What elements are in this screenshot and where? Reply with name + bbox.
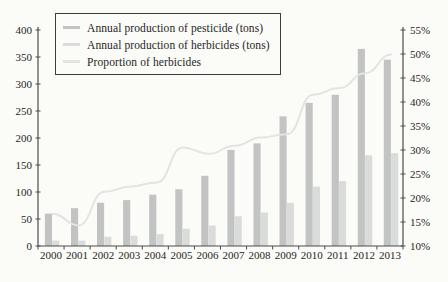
bar-herbicide-2005 — [183, 229, 190, 246]
bar-herbicide-2012 — [365, 155, 372, 246]
left-axis-tick-label: 50 — [21, 213, 33, 225]
bar-herbicide-2006 — [209, 226, 216, 247]
right-axis-tick-label: 15% — [410, 216, 430, 228]
right-axis-tick-label: 55% — [410, 24, 430, 36]
x-axis-year-label: 2008 — [249, 249, 272, 261]
left-axis-tick-label: 100 — [16, 186, 33, 198]
left-axis-tick-label: 250 — [16, 105, 33, 117]
legend-item-proportion: Proportion of herbicides — [63, 53, 270, 70]
bar-pesticide-2010 — [306, 103, 313, 246]
legend-item-herbicide: Annual production of herbicides (tons) — [63, 36, 270, 53]
right-axis-tick-label: 20% — [410, 192, 430, 204]
bar-pesticide-2013 — [384, 60, 391, 246]
x-axis-year-label: 2013 — [379, 249, 402, 261]
bar-pesticide-2011 — [332, 95, 339, 246]
bar-herbicide-2010 — [313, 187, 320, 246]
right-axis-tick-label: 25% — [410, 168, 430, 180]
bar-herbicide-2007 — [235, 216, 242, 246]
x-axis-year-label: 2007 — [223, 249, 246, 261]
bar-pesticide-2006 — [201, 176, 208, 246]
bar-pesticide-2005 — [175, 189, 182, 246]
left-axis-tick-label: 400 — [16, 24, 33, 36]
left-axis-tick-label: 200 — [16, 132, 33, 144]
legend-swatch-proportion — [63, 60, 80, 63]
bar-pesticide-2001 — [71, 208, 78, 246]
legend-swatch-herbicide — [63, 43, 80, 46]
bar-herbicide-2004 — [157, 234, 164, 246]
bar-herbicide-2011 — [339, 181, 346, 246]
x-axis-year-label: 2000 — [40, 249, 63, 261]
bar-pesticide-2007 — [227, 150, 234, 246]
bar-pesticide-2012 — [358, 49, 365, 246]
right-axis-tick-label: 40% — [410, 96, 430, 108]
legend-label-herbicide: Annual production of herbicides (tons) — [87, 39, 270, 51]
x-axis-year-label: 2011 — [327, 249, 349, 261]
bar-pesticide-2004 — [149, 195, 156, 246]
right-axis-tick-label: 10% — [410, 240, 430, 252]
x-axis-year-label: 2003 — [118, 249, 141, 261]
left-axis-tick-label: 0 — [27, 240, 33, 252]
chart-legend: Annual production of pesticide (tons) An… — [55, 13, 281, 75]
bar-herbicide-2003 — [130, 236, 137, 246]
right-axis-tick-label: 35% — [410, 120, 430, 132]
legend-item-pesticide: Annual production of pesticide (tons) — [63, 19, 270, 36]
x-axis-year-label: 2004 — [144, 249, 167, 261]
x-axis-year-label: 2009 — [275, 249, 298, 261]
right-axis-tick-label: 50% — [410, 48, 430, 60]
chart-figure: 05010015020025030035040010%15%20%25%30%3… — [0, 0, 448, 282]
bar-pesticide-2003 — [123, 200, 130, 246]
bar-pesticide-2008 — [254, 143, 261, 246]
bar-herbicide-2000 — [52, 241, 59, 246]
left-axis-tick-label: 150 — [16, 159, 33, 171]
x-axis-year-label: 2005 — [170, 249, 193, 261]
bar-pesticide-2002 — [97, 203, 104, 246]
x-axis-year-label: 2010 — [301, 249, 324, 261]
left-axis-tick-label: 350 — [16, 51, 33, 63]
bar-herbicide-2013 — [391, 153, 398, 246]
bar-herbicide-2008 — [261, 213, 268, 247]
bar-herbicide-2009 — [287, 203, 294, 246]
right-axis-tick-label: 45% — [410, 72, 430, 84]
x-axis-year-label: 2006 — [196, 249, 219, 261]
left-axis-tick-label: 300 — [16, 78, 33, 90]
legend-label-proportion: Proportion of herbicides — [87, 56, 201, 68]
bar-pesticide-2009 — [280, 116, 287, 246]
right-axis-tick-label: 30% — [410, 144, 430, 156]
legend-swatch-pesticide — [63, 26, 80, 29]
bar-herbicide-2001 — [78, 241, 85, 246]
legend-label-pesticide: Annual production of pesticide (tons) — [87, 22, 263, 34]
x-axis-year-label: 2012 — [353, 249, 375, 261]
bar-pesticide-2000 — [45, 214, 52, 246]
x-axis-year-label: 2002 — [92, 249, 114, 261]
x-axis-year-label: 2001 — [66, 249, 88, 261]
bar-herbicide-2002 — [104, 237, 111, 246]
